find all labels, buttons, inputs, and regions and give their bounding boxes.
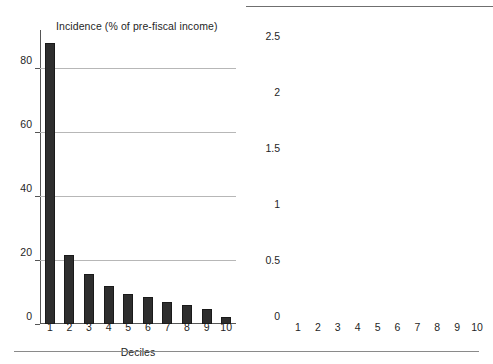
y-axis-tick: [35, 132, 40, 133]
y-axis-tick-label: 2: [254, 86, 280, 98]
y-axis-tick: [35, 196, 40, 197]
y-axis-tick-label: 0: [6, 310, 32, 322]
figure-container: Incidence (% of pre-fiscal income) Decil…: [0, 0, 493, 364]
y-axis-tick-label: 20: [6, 246, 32, 258]
y-axis-tick-label: 0.5: [254, 254, 280, 266]
bar: [104, 286, 114, 324]
top-divider-rule: [246, 6, 493, 7]
chart-panel-left: Incidence (% of pre-fiscal income) Decil…: [0, 8, 246, 348]
y-axis-tick-label: 1.5: [254, 142, 280, 154]
bar: [64, 255, 74, 324]
y-axis-tick-label: 80: [6, 54, 32, 66]
y-axis-tick-label: 2.5: [254, 30, 280, 42]
bottom-divider-rule: [14, 351, 479, 352]
plot-area-left: [40, 30, 236, 324]
y-axis-tick: [35, 68, 40, 69]
gridline: [40, 68, 236, 69]
y-axis-tick: [35, 260, 40, 261]
x-axis-tick-label: 10: [212, 321, 240, 333]
bar: [143, 297, 153, 324]
y-axis-tick-label: 0: [254, 310, 280, 322]
x-axis-tick-label: 10: [463, 321, 491, 333]
gridline: [40, 196, 236, 197]
bar: [45, 43, 55, 324]
y-axis-tick-label: 1: [254, 198, 280, 210]
chart-panel-right: Incidence (US$ per capita) Deciles: [246, 8, 493, 348]
gridline: [40, 132, 236, 133]
x-axis-title-left: Deciles: [40, 346, 236, 358]
bar: [84, 274, 94, 324]
y-axis-tick-label: 40: [6, 182, 32, 194]
y-axis-tick-label: 60: [6, 118, 32, 130]
y-axis-line-left: [40, 30, 41, 324]
bar: [123, 294, 133, 324]
